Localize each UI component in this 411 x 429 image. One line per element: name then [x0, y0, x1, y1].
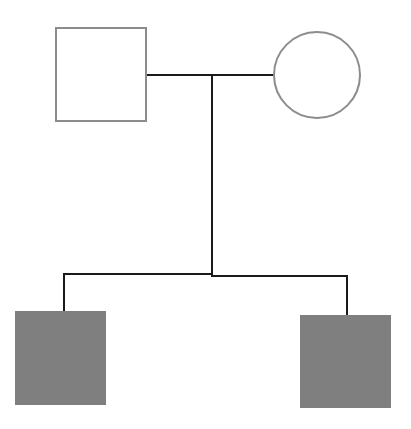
father-square: [56, 28, 146, 121]
affected-son-1-square: [15, 311, 106, 405]
mother-circle: [274, 32, 360, 118]
affected-son-2-square: [300, 315, 391, 408]
sibship-line: [64, 274, 347, 315]
pedigree-diagram: [0, 0, 411, 429]
